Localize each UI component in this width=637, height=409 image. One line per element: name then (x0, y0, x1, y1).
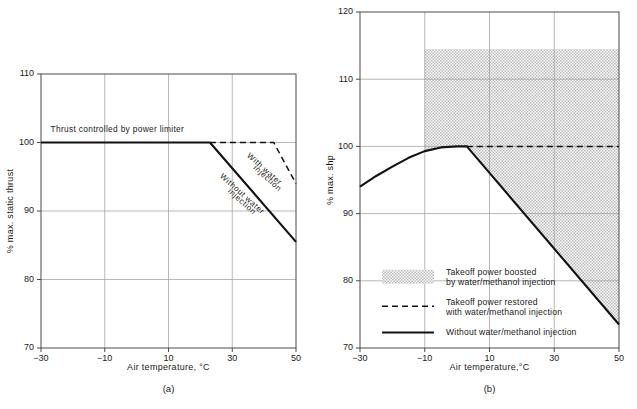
xtick-label--10: −10 (417, 353, 432, 363)
xtick-label-50: 50 (614, 353, 624, 363)
panel-b-svg: −30−10103050708090100110120Air temperatu… (320, 0, 637, 409)
panel-a-svg: −30−10103050708090100110Air temperature,… (0, 0, 320, 409)
legend-label-line1: Takeoff power restored (446, 297, 538, 307)
legend-swatch-shaded (382, 270, 434, 284)
x-axis-label: Air temperature, °C (127, 362, 210, 372)
ytick-label-90: 90 (24, 205, 34, 215)
ytick-label-80: 80 (24, 274, 34, 284)
ytick-label-80: 80 (343, 275, 353, 285)
y-axis-label: % max. shp (325, 155, 335, 205)
xtick-label--30: −30 (352, 353, 367, 363)
xtick-label-30: 30 (549, 353, 559, 363)
legend-restored: Takeoff power restoredwith water/methano… (382, 297, 562, 317)
ytick-label-70: 70 (343, 342, 353, 352)
xtick-label--10: −10 (97, 353, 112, 363)
ytick-label-120: 120 (338, 6, 353, 16)
legend-without: Without water/methanol injection (382, 327, 577, 337)
ytick-label-110: 110 (339, 74, 353, 84)
ytick-label-90: 90 (343, 208, 353, 218)
xtick-label-50: 50 (291, 353, 301, 363)
ytick-label-100: 100 (19, 137, 34, 147)
legend-label-line1: Without water/methanol injection (446, 327, 577, 337)
ytick-label-70: 70 (24, 342, 34, 352)
x-axis-label: Air temperature,°C (449, 362, 529, 372)
ytick-label-100: 100 (338, 141, 353, 151)
panel-caption: (a) (163, 383, 175, 394)
xtick-label--30: −30 (33, 353, 48, 363)
y-axis-label: % max. static thrust (5, 169, 15, 254)
chart-panel-b: −30−10103050708090100110120Air temperatu… (320, 0, 637, 409)
ytick-label-110: 110 (20, 68, 34, 78)
xtick-label-30: 30 (227, 353, 237, 363)
legend-label-line1: Takeoff power boosted (446, 267, 537, 277)
figure-container: −30−10103050708090100110Air temperature,… (0, 0, 637, 409)
panel-caption: (b) (484, 383, 496, 394)
power-limiter-note: Thrust controlled by power limiter (51, 124, 185, 134)
legend-boosted: Takeoff power boostedby water/methanol i… (382, 267, 556, 287)
legend-label-line2: with water/methanol injection (445, 307, 562, 317)
chart-panel-a: −30−10103050708090100110Air temperature,… (0, 0, 320, 409)
legend-label-line2: by water/methanol injection (446, 277, 556, 287)
